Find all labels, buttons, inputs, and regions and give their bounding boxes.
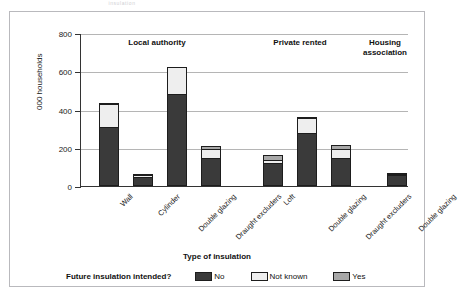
- legend-item-no: No: [195, 272, 224, 281]
- y-axis-tick: [75, 34, 81, 35]
- bar-segment-no: [263, 163, 283, 186]
- bar-segment-no: [331, 158, 351, 186]
- group-header-0: Local authority: [102, 38, 212, 48]
- gridline: [81, 149, 408, 150]
- group-header-2: Housing association: [352, 38, 418, 58]
- chart-legend: Future insulation intended? NoNot knownY…: [66, 272, 391, 281]
- bar-segment-no: [99, 127, 119, 186]
- y-axis-tick-label: 0: [68, 183, 72, 192]
- bar-2: [167, 67, 187, 186]
- x-axis-label-7: Double glazing: [417, 192, 458, 233]
- bar-segment-not-known: [99, 104, 119, 127]
- y-axis-tick-label: 600: [59, 68, 72, 77]
- bar-segment-no: [201, 158, 221, 186]
- x-axis-label-3: Draught excluders: [234, 192, 283, 241]
- bar-7: [387, 173, 407, 186]
- legend-label: No: [214, 272, 224, 281]
- x-axis-label-0: Wall: [118, 192, 134, 208]
- legend-items: NoNot knownYes: [195, 272, 391, 281]
- cropped-header-text: insulation: [62, 0, 182, 8]
- gridline: [81, 72, 408, 73]
- bar-segment-no: [167, 94, 187, 186]
- y-axis-title: 000 households: [35, 54, 44, 111]
- group-header-1: Private rented: [250, 38, 350, 48]
- bar-segment-not-known: [167, 67, 187, 95]
- y-axis-tick: [75, 111, 81, 112]
- y-axis-tick: [75, 187, 81, 188]
- y-axis-tick-label: 800: [59, 30, 72, 39]
- x-axis-label-2: Double glazing: [197, 192, 238, 233]
- bar-3: [201, 146, 221, 186]
- bar-6: [331, 145, 351, 186]
- chart-figure-frame: 000 households 0200400600800 Local autho…: [9, 11, 425, 287]
- bar-segment-no: [297, 133, 317, 186]
- legend-swatch-icon: [251, 272, 268, 281]
- bar-segment-no: [387, 175, 407, 186]
- gridline: [81, 111, 408, 112]
- legend-item-yes: Yes: [333, 272, 365, 281]
- bar-5: [297, 117, 317, 186]
- y-axis-tick-label: 400: [59, 106, 72, 115]
- y-axis-tick: [75, 72, 81, 73]
- bar-segment-not-known: [297, 118, 317, 135]
- x-axis-label-6: Draught excluders: [364, 192, 413, 241]
- y-axis-tick-label: 200: [59, 144, 72, 153]
- legend-swatch-icon: [195, 272, 212, 281]
- gridline: [81, 34, 408, 35]
- legend-label: Not known: [270, 272, 308, 281]
- legend-item-not-known: Not known: [251, 272, 308, 281]
- bar-4: [263, 155, 283, 186]
- legend-label: Yes: [352, 272, 365, 281]
- bar-0: [99, 103, 119, 186]
- y-axis-tick: [75, 149, 81, 150]
- x-axis-label-5: Double glazing: [327, 192, 368, 233]
- bar-segment-no: [133, 177, 153, 186]
- x-axis-label-1: Cylinder: [156, 192, 182, 218]
- x-axis-title: Type of insulation: [10, 252, 424, 261]
- x-axis-label-4: Loft: [282, 192, 297, 207]
- legend-title: Future insulation intended?: [66, 272, 171, 281]
- legend-swatch-icon: [333, 272, 350, 281]
- bar-1: [133, 174, 153, 186]
